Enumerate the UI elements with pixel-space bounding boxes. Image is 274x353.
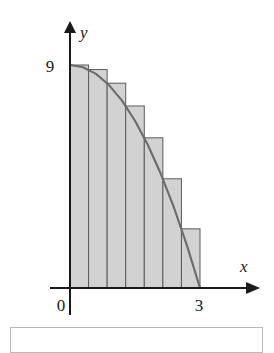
riemann-rectangles	[70, 65, 200, 288]
riemann-rectangle	[144, 138, 163, 288]
riemann-rectangle	[89, 70, 108, 288]
origin-tick-label: 0	[57, 296, 66, 315]
x-axis-label: x	[239, 257, 248, 276]
x-tick-label-3: 3	[195, 296, 204, 315]
riemann-rectangle	[107, 83, 126, 288]
riemann-rectangle	[163, 179, 182, 288]
x-axis-arrowhead	[246, 282, 260, 294]
caption-box	[10, 327, 263, 353]
y-axis-label: y	[78, 23, 88, 42]
y-tick-label-9: 9	[46, 57, 55, 76]
y-axis-arrowhead	[64, 21, 76, 33]
riemann-rectangle	[70, 65, 89, 288]
